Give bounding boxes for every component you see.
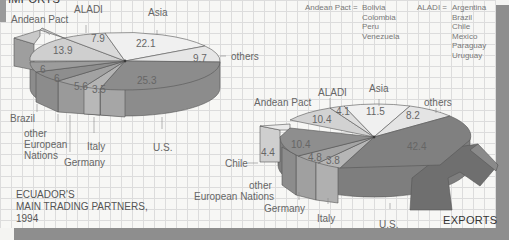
exports-value-other-eu: 10.4: [291, 139, 310, 150]
imports-value-others: 9.7: [193, 53, 207, 64]
imports-label-asia: Asia: [148, 7, 167, 18]
imports-label-us: U.S.: [153, 142, 172, 153]
imports-value-italy: 3.5: [92, 84, 106, 95]
legend-member: Chile: [452, 22, 486, 32]
exports-label-germany: Germany: [264, 203, 305, 214]
legend-member: Brazil: [452, 13, 486, 23]
exports-value-aladi: 4.1: [336, 106, 350, 117]
legend-andean-label: Andean Pact =: [305, 3, 358, 13]
exports-label-asia: Asia: [369, 83, 388, 94]
legend-member: Mexico: [452, 32, 486, 42]
imports-value-andean: 13.9: [53, 45, 72, 56]
imports-value-aladi: 7.9: [91, 33, 105, 44]
exports-label-aladi: ALADI: [318, 87, 347, 98]
exports-heading: EXPORTS: [443, 214, 497, 226]
legend-aladi-label: ALADI =: [417, 3, 447, 13]
label-line: Nations: [24, 150, 67, 161]
imports-heading: IMPORTS: [8, 0, 60, 5]
imports-value-other-eu: 6: [54, 73, 60, 84]
title-line-3: 1994: [16, 213, 148, 225]
exports-value-others: 8.2: [406, 110, 420, 121]
title-line-1: ECUADOR'S: [16, 189, 148, 201]
exports-label-others: others: [424, 97, 452, 108]
exports-value-chile: 4.4: [261, 147, 275, 158]
exports-pie: [260, 104, 498, 210]
legend-aladi-members: Argentina Brazil Chile Mexico Paraguay U…: [452, 3, 486, 60]
exports-label-chile: Chile: [225, 158, 248, 169]
exports-value-italy: 3.8: [326, 155, 340, 166]
legend-member: Venezuela: [362, 32, 399, 42]
exports-label-italy: Italy: [317, 213, 335, 224]
imports-label-other-eu: other European Nations: [24, 128, 67, 161]
title-line-2: MAIN TRADING PARTNERS,: [16, 201, 148, 213]
legend-member: Bolivia: [362, 3, 399, 13]
legend-member: Uruguay: [452, 51, 486, 61]
exports-value-us: 42.4: [407, 141, 426, 152]
legend-member: Colombia: [362, 13, 399, 23]
exports-label-other-eu-2: European Nations: [194, 191, 274, 202]
imports-label-aladi: ALADI: [74, 4, 103, 15]
exports-value-andean: 10.4: [312, 114, 331, 125]
imports-value-brazil: 6: [40, 64, 46, 75]
imports-label-brazil: Brazil: [10, 113, 35, 124]
imports-value-germany: 5.6: [74, 81, 88, 92]
legend-member: Argentina: [452, 3, 486, 13]
imports-value-us: 25.3: [137, 75, 156, 86]
exports-label-other-eu-1: other: [249, 180, 272, 191]
imports-value-asia: 22.1: [136, 38, 155, 49]
imports-label-others: others: [231, 51, 259, 62]
imports-label-andean: Andean Pact: [11, 14, 68, 25]
imports-label-germany: Germany: [64, 157, 105, 168]
legend-member: Peru: [362, 22, 399, 32]
legend-andean-members: Bolivia Colombia Peru Venezuela: [362, 3, 399, 41]
exports-value-asia: 11.5: [366, 106, 385, 117]
exports-value-germany: 4.8: [308, 152, 322, 163]
exports-label-andean: Andean Pact: [254, 97, 311, 108]
label-line: European: [24, 139, 67, 150]
imports-label-italy: Italy: [87, 141, 105, 152]
exports-label-us: U.S.: [379, 219, 398, 230]
label-line: other: [24, 128, 67, 139]
chart-title: ECUADOR'S MAIN TRADING PARTNERS, 1994: [16, 189, 148, 225]
legend-member: Paraguay: [452, 41, 486, 51]
